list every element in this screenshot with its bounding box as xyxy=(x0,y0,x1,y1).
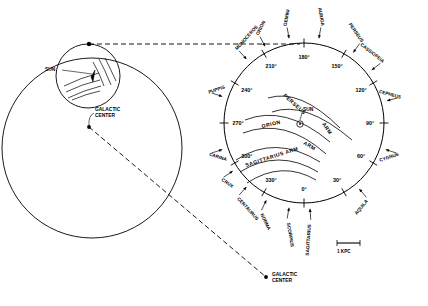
constellation-arrowhead-gemini xyxy=(287,35,290,38)
longitude-tick-layer xyxy=(220,39,389,208)
longitude-tick-150 xyxy=(342,50,347,58)
left-gc-label-line1: GALACTIC xyxy=(95,107,121,112)
left-gc-leader-line xyxy=(89,113,94,126)
longitude-tick-300 xyxy=(231,161,239,166)
detail-main-circle xyxy=(224,43,384,203)
constellation-arrowhead-carina xyxy=(219,149,223,152)
inset-sun-pointer xyxy=(91,70,95,82)
constellation-label-perseus: PERSEUS xyxy=(348,22,365,43)
constellation-label-cepheus: CEPHEUS xyxy=(378,89,401,100)
constellation-arrowhead-puppis xyxy=(219,94,223,97)
galaxy-diagram-canvas: SUN GALACTIC CENTER xyxy=(0,0,428,306)
longitude-tick-210 xyxy=(262,50,267,58)
detail-spiral-arms xyxy=(236,96,352,183)
longitude-tick-330 xyxy=(262,188,267,196)
left-gc-label-line2: CENTER xyxy=(95,113,116,118)
sun-leader-line xyxy=(62,70,92,74)
constellation-label-crux: CRUX xyxy=(221,177,236,189)
scale-bar: 1 KPC xyxy=(337,240,360,254)
right-panel-detail: SUN PERSEUS ARM ORION ARM SAGITTARIUS AR… xyxy=(208,7,402,283)
constellation-arrowhead-cygnus xyxy=(386,149,390,152)
longitude-label-30: 30° xyxy=(333,177,341,183)
constellation-label-carina: CARINA xyxy=(209,152,228,163)
galaxy-outer-circle xyxy=(2,58,182,238)
longitude-label-150: 150° xyxy=(331,63,342,69)
constellation-label-gemini: GEMINI xyxy=(283,9,291,26)
constellation-label-monoceros: MONOCEROS xyxy=(234,24,259,51)
longitude-tick-60 xyxy=(369,161,377,166)
longitude-label-60: 60° xyxy=(357,153,365,159)
longitude-label-90: 90° xyxy=(366,120,374,126)
longitude-label-300: 300° xyxy=(241,153,252,159)
longitude-label-330: 330° xyxy=(265,177,276,183)
inset-spiral-arms xyxy=(64,58,116,100)
right-galactic-center-dot xyxy=(264,275,268,279)
constellation-label-cassiopeia: CASSIOPEIA xyxy=(359,42,385,64)
arm-label-sagittarius-arm: SAGITTARIUS ARM xyxy=(244,145,298,168)
constellation-arrowhead-sagittarius xyxy=(309,209,312,212)
left-sun-label: SUN xyxy=(45,67,56,72)
right-gc-label-line1: GALACTIC xyxy=(272,272,298,277)
longitude-label-0: 0° xyxy=(301,186,306,192)
arm-label-perseus: PERSEUS xyxy=(282,92,307,115)
constellation-label-scorpius: SCORPIUS xyxy=(286,222,295,247)
constellation-arrowhead-perseus xyxy=(353,49,356,52)
constellation-arrowhead-scorpius xyxy=(287,208,290,211)
constellation-arrowhead-crux xyxy=(229,171,232,174)
constellation-label-puppis: PUPPIS xyxy=(208,85,226,95)
constellation-label-cygnus: CYGNUS xyxy=(379,152,400,163)
constellation-label-sagittarius: SAGITTARIUS xyxy=(305,224,312,256)
longitude-tick-120 xyxy=(369,81,377,86)
arm-label-orion: ORION xyxy=(261,119,281,129)
scale-bar-label: 1 KPC xyxy=(337,249,351,254)
longitude-tick-30 xyxy=(342,188,347,196)
arm-label-orion-arm: ARM xyxy=(303,140,318,152)
diagram-root: SUN GALACTIC CENTER xyxy=(0,0,428,306)
right-gc-label-line2: CENTER xyxy=(272,278,293,283)
constellation-label-norma: NORMA xyxy=(259,213,272,232)
longitude-label-210: 210° xyxy=(265,63,276,69)
longitude-label-180: 180° xyxy=(298,54,309,60)
longitude-label-120: 120° xyxy=(356,87,367,93)
perseus-arm-curve-2 xyxy=(272,109,352,140)
constellation-label-aquila: AQUILA xyxy=(354,198,370,215)
longitude-label-270: 270° xyxy=(232,120,243,126)
left-panel-galaxy-overview: SUN GALACTIC CENTER xyxy=(2,42,182,238)
sagittarius-arm-curve-3 xyxy=(247,171,316,183)
constellation-label-auriga: AURIGA xyxy=(317,7,325,27)
detail-sun-marker xyxy=(297,113,303,127)
constellation-label-layer: MONOCEROSORIONGEMINIAURIGAPERSEUSCASSIOP… xyxy=(208,7,402,256)
constellation-arrowhead-auriga xyxy=(318,35,321,38)
longitude-tick-240 xyxy=(231,81,239,86)
arm-label-perseus-arm: ARM xyxy=(321,121,333,135)
longitude-label-240: 240° xyxy=(241,87,252,93)
constellation-label-centaurus: CENTAURUS xyxy=(236,196,259,221)
